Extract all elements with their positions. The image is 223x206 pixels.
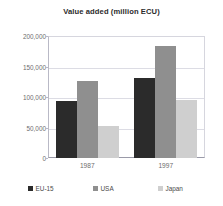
legend-label: Japan (166, 185, 183, 192)
legend-item-usa[interactable]: USA (93, 185, 114, 192)
y-tick-label: 0 (2, 155, 46, 162)
legend-item-japan[interactable]: Japan (158, 185, 183, 192)
x-tick-label: 1997 (158, 162, 173, 169)
y-tick-label: 200,000 (2, 33, 46, 40)
chart-title: Value added (million ECU) (0, 7, 223, 16)
y-axis: 050,000100,000150,000200,000 (0, 36, 46, 158)
bars-layer (48, 36, 205, 158)
x-tick-label: 1987 (80, 162, 95, 169)
chart-legend: EU-15USAJapan (0, 185, 223, 201)
y-tick-label: 50,000 (2, 124, 46, 131)
legend-label: USA (101, 185, 114, 192)
legend-swatch-icon (93, 186, 98, 191)
y-tick-label: 150,000 (2, 63, 46, 70)
bar-eu-15-1987 (56, 101, 77, 158)
legend-label: EU-15 (36, 185, 54, 192)
bar-eu-15-1997 (134, 78, 155, 158)
legend-swatch-icon (158, 186, 163, 191)
y-tick-label: 100,000 (2, 94, 46, 101)
bar-usa-1997 (155, 46, 176, 158)
bar-usa-1987 (77, 81, 98, 158)
legend-item-eu-15[interactable]: EU-15 (28, 185, 54, 192)
bar-japan-1997 (176, 100, 197, 158)
bar-chart: Value added (million ECU) 050,000100,000… (0, 0, 223, 206)
bar-japan-1987 (98, 126, 119, 158)
legend-swatch-icon (28, 186, 33, 191)
x-axis: 19871997 (48, 159, 205, 175)
